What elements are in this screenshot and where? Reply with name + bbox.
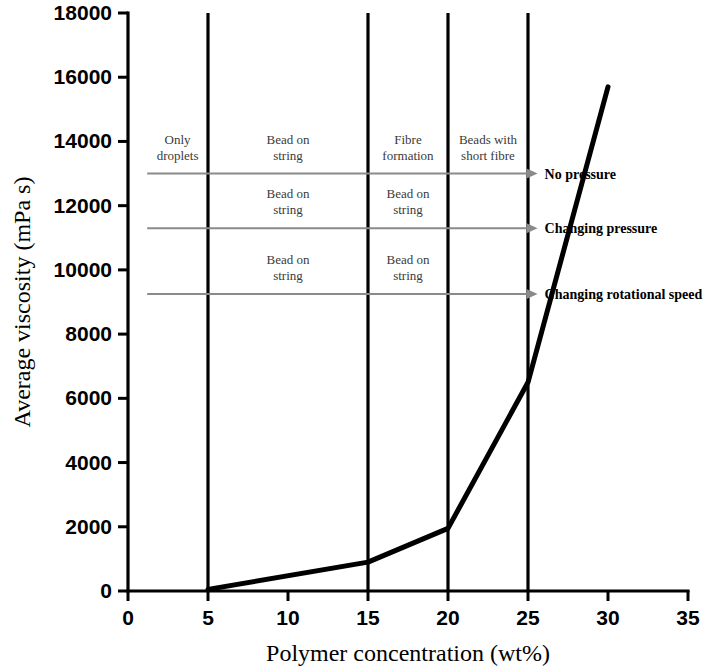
y-axis-title: Average viscosity (mPa s) xyxy=(9,177,35,428)
region-label-2-2-line2: string xyxy=(393,202,423,217)
x-tick-label-30: 30 xyxy=(596,606,619,629)
y-tick-label-16000: 16000 xyxy=(54,65,112,88)
x-tick-label-20: 20 xyxy=(436,606,459,629)
region-label-1-1: Only xyxy=(165,132,192,147)
x-tick-label-0: 0 xyxy=(122,606,134,629)
x-tick-label-10: 10 xyxy=(276,606,299,629)
region-label-2-2: Bead on xyxy=(387,186,430,201)
region-label-3-2: Bead on xyxy=(387,252,430,267)
chart-canvas: 0200040006000800010000120001400016000180… xyxy=(0,0,718,669)
region-label-2-1: Bead on xyxy=(267,186,310,201)
y-tick-label-4000: 4000 xyxy=(65,451,112,474)
region-label-1-1-line2: droplets xyxy=(157,148,199,163)
y-tick-label-10000: 10000 xyxy=(54,258,112,281)
region-label-2-1-line2: string xyxy=(273,202,303,217)
region-label-3-2-line2: string xyxy=(393,268,423,283)
y-tick-label-0: 0 xyxy=(100,579,112,602)
y-tick-label-12000: 12000 xyxy=(54,194,112,217)
annotation-row-label-2: Changing pressure xyxy=(545,221,658,236)
region-label-3-1-line2: string xyxy=(273,268,303,283)
annotation-row-label-3: Changing rotational speed xyxy=(545,287,703,302)
x-axis-title: Polymer concentration (wt%) xyxy=(266,640,550,666)
region-label-1-2-line2: string xyxy=(273,148,303,163)
y-tick-label-2000: 2000 xyxy=(65,515,112,538)
annotation-row-label-1: No pressure xyxy=(545,167,616,182)
region-label-1-3: Fibre xyxy=(394,132,422,147)
y-tick-label-18000: 18000 xyxy=(54,1,112,24)
region-label-3-1: Bead on xyxy=(267,252,310,267)
region-label-1-3-line2: formation xyxy=(382,148,434,163)
region-label-1-4: Beads with xyxy=(459,132,518,147)
y-tick-label-14000: 14000 xyxy=(54,129,112,152)
region-label-1-2: Bead on xyxy=(267,132,310,147)
x-tick-label-15: 15 xyxy=(356,606,380,629)
x-tick-label-35: 35 xyxy=(676,606,700,629)
x-tick-label-25: 25 xyxy=(516,606,540,629)
y-tick-label-8000: 8000 xyxy=(65,322,112,345)
viscosity-chart-figure: 0200040006000800010000120001400016000180… xyxy=(0,0,718,669)
x-tick-label-5: 5 xyxy=(202,606,214,629)
region-label-1-4-line2: short fibre xyxy=(461,148,515,163)
y-tick-label-6000: 6000 xyxy=(65,386,112,409)
